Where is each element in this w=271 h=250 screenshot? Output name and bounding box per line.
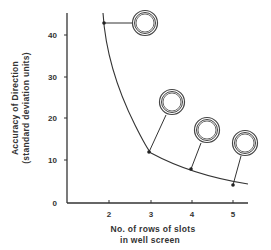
chart: 40 30 20 10 0 2 3 4 5 No. of rows of slo… [0, 0, 271, 250]
x-tick-2: 2 [107, 210, 112, 219]
x-axis-title-line1: No. of rows of slots [111, 224, 196, 234]
y-tick-20: 20 [48, 114, 57, 123]
y-tick-30: 30 [48, 73, 57, 82]
well-screen-circle-icon [195, 118, 220, 143]
x-tick-labels: 2 3 4 5 [107, 210, 236, 219]
x-tick-3: 3 [149, 210, 154, 219]
well-screen-circle-icon [160, 90, 185, 115]
data-point-3 [189, 167, 193, 171]
x-axis-title: No. of rows of slots in well screen [111, 224, 196, 245]
y-tick-0: 0 [53, 199, 58, 208]
well-screen-icons [133, 11, 258, 156]
y-tick-10: 10 [48, 156, 57, 165]
x-tick-4: 4 [190, 210, 195, 219]
leader-lines [104, 23, 241, 185]
y-tick-labels: 40 30 20 10 0 [48, 31, 57, 208]
fit-curve [103, 13, 248, 184]
data-point-1 [102, 21, 106, 25]
data-point-2 [147, 150, 151, 154]
y-axis-title-line1: Accuracy of Direction [10, 61, 20, 155]
well-screen-circle-icon [133, 11, 158, 36]
x-tick-5: 5 [231, 210, 236, 219]
y-axis-title: Accuracy of Direction (standard deviatio… [10, 52, 31, 164]
well-screen-circle-icon [233, 131, 258, 156]
y-axis-title-line2: (standard deviation units) [21, 52, 31, 164]
x-axis-title-line2: in well screen [120, 235, 180, 245]
y-tick-40: 40 [48, 31, 57, 40]
data-point-4 [231, 183, 235, 187]
